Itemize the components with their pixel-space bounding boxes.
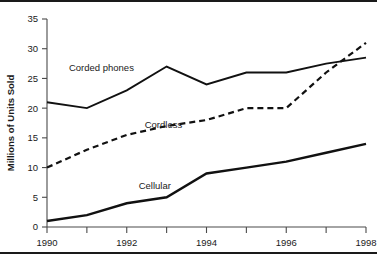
y-tick-label: 5 [33,192,38,203]
series-label-cellular: Cellular [139,180,171,191]
x-tick-label: 1992 [116,237,137,248]
y-axis-group: 05101520253035 [27,13,47,232]
y-tick-label: 20 [27,103,38,114]
x-tick-label: 1990 [36,237,57,248]
y-tick-label: 25 [27,73,38,84]
x-tick-label: 1994 [196,237,217,248]
y-axis-title: Millions of Units Sold [5,75,16,172]
series-line-cellular [47,144,366,221]
x-tick-label: 1996 [276,237,297,248]
chart-figure: 05101520253035 19901992199419961998 Mill… [0,0,377,254]
y-tick-label: 10 [27,162,38,173]
x-tick-label: 1998 [355,237,376,248]
series-label-corded-phones: Corded phones [69,62,134,73]
series-label-cordless: Cordless [145,119,183,130]
y-tick-label: 30 [27,43,38,54]
x-axis-group: 19901992199419961998 [36,227,376,248]
y-tick-label: 15 [27,132,38,143]
line-chart: 05101520253035 19901992199419961998 Mill… [0,2,377,254]
y-tick-group: 05101520253035 [27,13,47,232]
y-tick-label: 0 [33,221,38,232]
series-label-group: Corded phonesCordlessCellular [69,62,182,191]
x-tick-group: 19901992199419961998 [36,227,376,248]
y-tick-label: 35 [27,13,38,24]
